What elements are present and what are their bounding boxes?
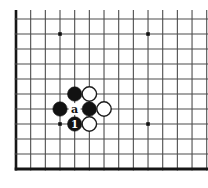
black-stone [67,87,81,101]
point-label: a [71,103,78,116]
white-stone [82,117,96,131]
star-point [58,32,62,36]
black-stone [53,102,67,116]
black-stone [82,102,96,116]
white-stone [82,87,96,101]
go-board-svg: a1 [0,0,208,188]
white-stone [97,102,111,116]
go-diagram-page: a1 [0,0,208,188]
star-point [146,32,150,36]
stone-move-number: 1 [71,118,78,130]
star-point [58,122,62,126]
star-point [146,122,150,126]
